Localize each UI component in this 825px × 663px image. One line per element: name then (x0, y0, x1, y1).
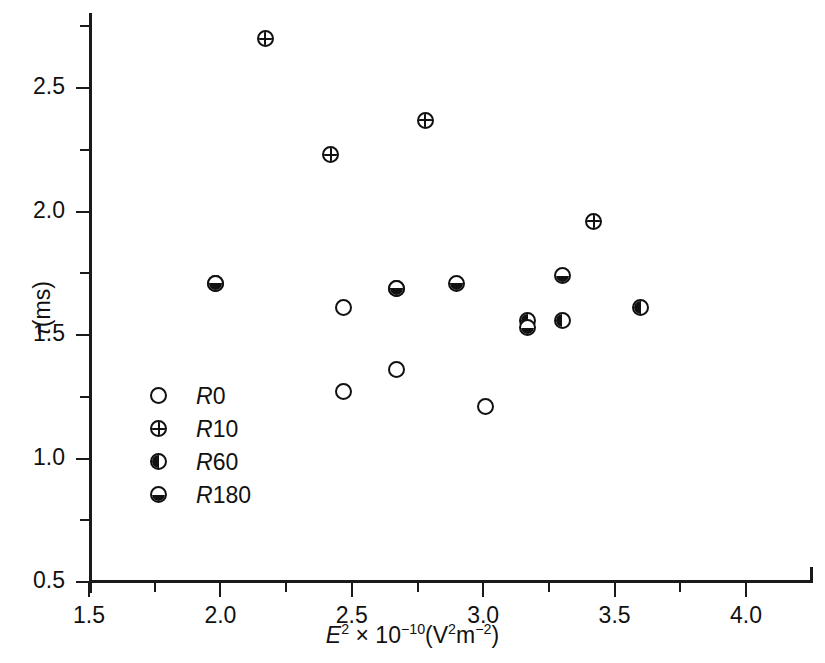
legend-item-label: R180 (196, 482, 251, 509)
x-axis-major-tick (88, 581, 90, 597)
y-axis-major-tick (76, 87, 92, 89)
marker-cross-horizontal (152, 428, 165, 430)
marker-open-circle (477, 398, 494, 415)
marker-left-half-fill (556, 314, 563, 327)
y-axis-minor-tick (80, 396, 92, 398)
marker-cross-horizontal (324, 154, 337, 156)
marker-open-circle (335, 383, 352, 400)
marker-bottom-half-filled-circle (554, 267, 571, 284)
marker-cross-circle (585, 213, 602, 230)
y-axis-minor-tick (80, 149, 92, 151)
legend-item-label: R10 (196, 416, 238, 443)
marker-bottom-half-fill (556, 276, 569, 283)
x-axis-label: E2 × 10−10(V2m−2) (0, 622, 825, 649)
marker-bottom-half-fill (152, 495, 165, 502)
marker-bottom-half-filled-circle (519, 319, 536, 336)
x-axis-major-tick (219, 581, 221, 597)
marker-cross-horizontal (419, 119, 432, 121)
marker-cross-circle (417, 112, 434, 129)
marker-left-half-fill (634, 301, 641, 314)
marker-bottom-half-filled-circle (448, 275, 465, 292)
legend-item-label: R0 (196, 383, 225, 410)
marker-open-circle (335, 299, 352, 316)
x-axis-minor-tick (417, 581, 419, 592)
y-axis-minor-tick (80, 25, 92, 27)
legend-item-label: R60 (196, 449, 238, 476)
y-axis-tick-label: 2.0 (3, 197, 65, 224)
marker-cross-circle (257, 30, 274, 47)
x-axis-minor-tick (548, 581, 550, 592)
marker-left-half-filled-circle (150, 453, 167, 470)
y-axis-spine (89, 13, 92, 593)
marker-bottom-half-filled-circle (388, 280, 405, 297)
marker-cross-circle (322, 146, 339, 163)
y-axis-major-tick (76, 458, 92, 460)
x-axis-major-tick (351, 581, 353, 597)
scatter-plot-figure: 0.51.01.52.02.5 1.52.02.53.03.54.0 τ(ms)… (0, 0, 825, 663)
marker-bottom-half-fill (521, 328, 534, 335)
marker-cross-horizontal (587, 220, 600, 222)
marker-bottom-half-fill (209, 283, 222, 290)
marker-cross-horizontal (259, 38, 272, 40)
marker-open-circle (388, 361, 405, 378)
marker-left-half-fill (152, 455, 159, 468)
x-axis-spine (89, 580, 813, 583)
x-axis-minor-tick (154, 581, 156, 592)
marker-bottom-half-filled-circle (150, 486, 167, 503)
marker-bottom-half-fill (390, 288, 403, 295)
marker-cross-circle (150, 420, 167, 437)
marker-bottom-half-filled-circle (207, 275, 224, 292)
x-axis-right-cap (810, 567, 813, 583)
y-axis-tick-label: 2.5 (3, 73, 65, 100)
x-axis-minor-tick (285, 581, 287, 592)
y-axis-major-tick (76, 334, 92, 336)
x-axis-major-tick (745, 581, 747, 597)
y-axis-tick-label: 1.0 (3, 444, 65, 471)
marker-bottom-half-fill (450, 283, 463, 290)
x-axis-major-tick (614, 581, 616, 597)
x-axis-minor-tick (679, 581, 681, 592)
y-axis-minor-tick (80, 519, 92, 521)
marker-left-half-filled-circle (554, 312, 571, 329)
marker-open-circle (150, 387, 167, 404)
y-axis-major-tick (76, 211, 92, 213)
y-axis-label: τ(ms) (29, 249, 56, 369)
marker-left-half-filled-circle (632, 299, 649, 316)
x-axis-major-tick (482, 581, 484, 597)
y-axis-minor-tick (80, 272, 92, 274)
y-axis-tick-label: 0.5 (3, 567, 65, 594)
